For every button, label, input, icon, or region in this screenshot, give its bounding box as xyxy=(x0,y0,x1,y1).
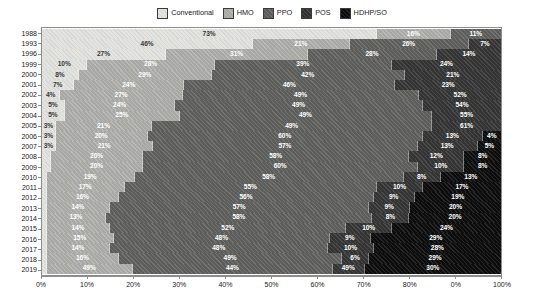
bar-segment-conventional[interactable]: 8% xyxy=(42,70,79,80)
bar-segment-hmo[interactable]: 49% xyxy=(47,264,133,274)
bar-segment-hmo[interactable]: 17% xyxy=(47,182,125,192)
bar-segment-hdhp-so[interactable]: 8% xyxy=(464,151,501,161)
bar-segment-hmo[interactable]: 24% xyxy=(65,100,175,110)
bar-segment-hdhp-so[interactable]: 29% xyxy=(371,233,502,243)
legend-item-conventional[interactable]: Conventional xyxy=(157,8,214,19)
bar-row[interactable]: 20%60%10%8% xyxy=(42,162,501,172)
bar-segment-pos[interactable]: 61% xyxy=(432,121,501,131)
bar-segment-hmo[interactable]: 19% xyxy=(47,172,135,182)
bar-segment-pos[interactable]: 8% xyxy=(404,172,441,182)
bar-row[interactable]: 46%21%26%7% xyxy=(42,39,501,49)
bar-row[interactable]: 27%31%28%14% xyxy=(42,49,501,59)
bar-segment-hmo[interactable]: 21% xyxy=(56,121,152,131)
bar-segment-hdhp-so[interactable]: 29% xyxy=(369,253,501,263)
bar-segment-hmo[interactable]: 24% xyxy=(74,80,184,90)
bar-segment-conventional[interactable]: 7% xyxy=(42,80,74,90)
bar-segment-hmo[interactable]: 28% xyxy=(87,60,214,70)
bar-segment-pos[interactable]: 14% xyxy=(437,49,501,59)
bar-segment-pos[interactable]: 49% xyxy=(333,264,365,274)
bar-row[interactable]: 20%58%12%8% xyxy=(42,151,501,161)
bar-segment-hmo[interactable]: 15% xyxy=(47,233,115,243)
bar-segment-conventional[interactable]: 46% xyxy=(42,39,253,49)
bar-segment-ppo[interactable]: 49% xyxy=(175,100,423,110)
legend-item-pos[interactable]: POS xyxy=(301,8,330,19)
bar-segment-pos[interactable]: 7% xyxy=(469,39,501,49)
bar-segment-pos[interactable]: 21% xyxy=(405,70,501,80)
bar-row[interactable]: 49%44%49%30% xyxy=(42,264,501,274)
bar-segment-hmo[interactable]: 21% xyxy=(253,39,349,49)
bar-row[interactable]: 73%16%11% xyxy=(42,29,501,39)
bar-row[interactable]: 14%48%10%28% xyxy=(42,243,501,253)
bar-segment-pos[interactable]: 23% xyxy=(395,80,501,90)
bar-row[interactable]: 5%25%49%55% xyxy=(42,111,501,121)
bar-segment-conventional[interactable]: 3% xyxy=(42,131,56,141)
bar-segment-hmo[interactable]: 20% xyxy=(56,131,148,141)
legend-item-hdhp-so[interactable]: HDHP/SO xyxy=(340,8,387,19)
bar-segment-ppo[interactable]: 58% xyxy=(135,172,404,182)
bar-row[interactable]: 13%58%8%20% xyxy=(42,213,501,223)
bar-segment-hmo[interactable]: 13% xyxy=(47,213,107,223)
bar-segment-pos[interactable]: 13% xyxy=(423,131,483,141)
bar-segment-conventional[interactable]: 4% xyxy=(42,90,60,100)
bar-segment-conventional[interactable] xyxy=(42,162,51,172)
bar-segment-hmo[interactable]: 16% xyxy=(377,29,450,39)
bar-segment-hmo[interactable]: 29% xyxy=(79,70,212,80)
bar-segment-hdhp-so[interactable]: 24% xyxy=(392,223,501,233)
bar-segment-ppo[interactable]: 60% xyxy=(148,131,423,141)
bar-segment-hdhp-so[interactable]: 20% xyxy=(409,213,501,223)
bar-row[interactable]: 17%55%10%17% xyxy=(42,182,501,192)
bar-row[interactable]: 14%52%10%24% xyxy=(42,223,501,233)
bar-segment-hdhp-so[interactable]: 17% xyxy=(423,182,501,192)
bar-segment-pos[interactable]: 6% xyxy=(342,253,369,263)
bar-segment-hmo[interactable]: 31% xyxy=(166,49,308,59)
bar-segment-ppo[interactable]: 49% xyxy=(152,121,432,131)
bar-row[interactable]: 3%21%57%13%5% xyxy=(42,141,501,151)
bar-segment-hmo[interactable]: 20% xyxy=(51,162,143,172)
bar-segment-conventional[interactable]: 3% xyxy=(42,121,56,131)
bar-segment-pos[interactable]: 13% xyxy=(418,141,478,151)
bar-row[interactable]: 7%24%46%23% xyxy=(42,80,501,90)
bar-segment-hdhp-so[interactable]: 30% xyxy=(365,264,501,274)
bar-row[interactable]: 16%49%6%29% xyxy=(42,253,501,263)
bar-row[interactable]: 3%21%49%61% xyxy=(42,121,501,131)
bar-segment-ppo[interactable]: 56% xyxy=(119,192,373,202)
bar-segment-hmo[interactable]: 14% xyxy=(47,223,111,233)
bar-segment-ppo[interactable]: 42% xyxy=(212,70,405,80)
bar-segment-pos[interactable]: 9% xyxy=(330,233,371,243)
bar-segment-hmo[interactable]: 16% xyxy=(47,192,120,202)
bar-segment-pos[interactable]: 9% xyxy=(374,192,415,202)
bar-segment-pos[interactable]: 10% xyxy=(418,162,464,172)
bar-segment-ppo[interactable]: 58% xyxy=(106,213,372,223)
bar-row[interactable]: 19%58%8%13% xyxy=(42,172,501,182)
bar-segment-pos[interactable]: 24% xyxy=(392,60,501,70)
bar-segment-pos[interactable]: 10% xyxy=(377,182,423,192)
bar-segment-hmo[interactable]: 14% xyxy=(47,243,111,253)
bar-row[interactable]: 14%57%9%20% xyxy=(42,202,501,212)
bar-segment-ppo[interactable]: 39% xyxy=(215,60,392,70)
legend-item-hmo[interactable]: HMO xyxy=(223,8,254,19)
bar-segment-ppo[interactable]: 52% xyxy=(110,223,346,233)
bar-row[interactable]: 16%56%9%19% xyxy=(42,192,501,202)
bar-segment-conventional[interactable]: 3% xyxy=(42,141,56,151)
bar-segment-hdhp-so[interactable]: 4% xyxy=(483,131,501,141)
bar-segment-hdhp-so[interactable]: 8% xyxy=(464,162,501,172)
bar-row[interactable]: 10%28%39%24% xyxy=(42,60,501,70)
bar-segment-hdhp-so[interactable]: 5% xyxy=(478,141,501,151)
bar-row[interactable]: 3%20%60%13%4% xyxy=(42,131,501,141)
bar-segment-ppo[interactable]: 48% xyxy=(114,233,330,243)
bar-segment-hdhp-so[interactable]: 28% xyxy=(374,243,501,253)
bar-segment-conventional[interactable]: 27% xyxy=(42,49,166,59)
bar-segment-hdhp-so[interactable]: 20% xyxy=(410,202,501,212)
bar-segment-ppo[interactable]: 49% xyxy=(183,90,419,100)
bar-segment-pos[interactable]: 9% xyxy=(369,202,410,212)
bar-row[interactable]: 5%24%49%54% xyxy=(42,100,501,110)
bar-row[interactable]: 4%27%49%52% xyxy=(42,90,501,100)
bar-segment-pos[interactable]: 10% xyxy=(346,223,391,233)
bar-segment-conventional[interactable]: 10% xyxy=(42,60,87,70)
bar-segment-ppo[interactable]: 28% xyxy=(308,49,437,59)
bar-segment-ppo[interactable]: 60% xyxy=(143,162,418,172)
bar-segment-hdhp-so[interactable]: 19% xyxy=(415,192,501,202)
bar-row[interactable]: 8%29%42%21% xyxy=(42,70,501,80)
bar-segment-conventional[interactable]: 5% xyxy=(42,100,65,110)
legend-item-ppo[interactable]: PPO xyxy=(263,8,292,19)
